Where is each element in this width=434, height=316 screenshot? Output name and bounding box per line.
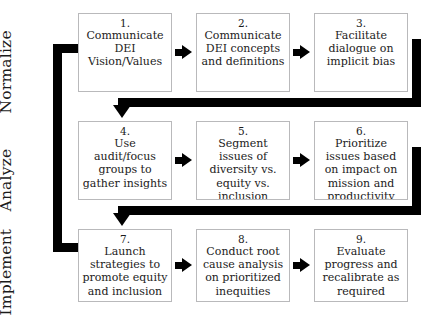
node-text: Use audit/focus groups to gather insight… [79,137,171,190]
node-text: Communicate DEI Vision/Values [79,29,171,69]
arrow-6-to-7-horizontal-bar [118,206,421,215]
process-node-4[interactable]: 4. Use audit/focus groups to gather insi… [78,121,172,200]
node-text: Facilitate dialogue on implicit bias [315,29,407,69]
process-node-1[interactable]: 1. Communicate DEI Vision/Values [78,13,172,92]
arrow-3-to-4-horizontal-bar [118,98,421,107]
arrow-3-to-4-head-icon [113,105,131,118]
process-node-2[interactable]: 2. Communicate DEI concepts and definiti… [196,13,290,92]
node-text: Communicate DEI concepts and definitions [197,29,289,69]
node-text: Prioritize issues based on impact on mis… [315,137,407,200]
arrow-6-to-7-vertical-bar [412,147,421,215]
arrow-1-to-2-icon [175,45,192,60]
phase-label-analyze: Analyze [0,149,14,212]
arrow-5-to-6-icon [293,153,310,168]
node-text: Evaluate progress and recalibrate as req… [315,245,407,298]
process-node-7[interactable]: 7. Launch strategies to promote equity a… [78,229,172,302]
process-node-5[interactable]: 5. Segment issues of diversity vs. equit… [196,121,290,200]
phase-label-normalize: Normalize [0,30,14,113]
arrow-6-to-7-head-icon [113,213,131,226]
node-number: 6. [356,125,366,137]
node-number: 5. [238,125,248,137]
node-number: 4. [120,125,130,137]
phase-label-implement: Implement [0,229,14,316]
arrow-8-to-9-icon [293,258,310,273]
node-number: 1. [120,17,130,29]
arrow-2-to-3-icon [293,45,310,60]
node-number: 8. [238,233,248,245]
arrow-3-to-4-vertical-bar [412,39,421,107]
process-node-9[interactable]: 9. Evaluate progress and recalibrate as … [314,229,408,302]
process-node-8[interactable]: 8. Conduct root cause analysis on priori… [196,229,290,302]
node-text: Segment issues of diversity vs. equity v… [197,137,289,200]
arrow-7-to-8-icon [175,258,192,273]
node-number: 9. [356,233,366,245]
node-number: 3. [356,17,366,29]
node-text: Conduct root cause analysis on prioritiz… [197,245,289,298]
node-number: 2. [238,17,248,29]
node-number: 7. [120,233,130,245]
process-node-3[interactable]: 3. Facilitate dialogue on implicit bias [314,13,408,92]
arrow-4-to-5-icon [175,153,192,168]
process-node-6[interactable]: 6. Prioritize issues based on impact on … [314,121,408,200]
node-text: Launch strategies to promote equity and … [79,245,171,298]
feedback-loop-vertical-bar [53,44,62,252]
